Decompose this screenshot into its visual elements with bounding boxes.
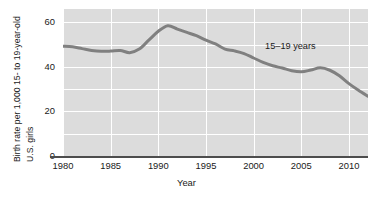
y-axis-tick-label: 60 xyxy=(33,16,55,27)
x-axis-line xyxy=(50,156,368,158)
x-axis-tick-label: 2000 xyxy=(234,160,274,171)
x-axis-tick-label: 2005 xyxy=(281,160,321,171)
y-axis-tick-label: 40 xyxy=(33,61,55,72)
x-axis-title: Year xyxy=(0,177,373,188)
x-axis-tick-label: 2010 xyxy=(329,160,369,171)
x-axis-tick-label: 1980 xyxy=(43,160,83,171)
y-axis-title: Birth rate per 1,000 15- to 19-year-old … xyxy=(0,0,36,168)
y-axis-tick-label: 20 xyxy=(33,105,55,116)
series-line-path xyxy=(63,26,368,97)
x-axis-tick-label: 1995 xyxy=(186,160,226,171)
data-line-series xyxy=(63,9,368,156)
plot-area: 15–19 years xyxy=(63,9,368,156)
y-axis-title-line-1: Birth rate per 1,000 15- to 19-year-old xyxy=(12,16,22,162)
x-axis-tick-label: 1985 xyxy=(91,160,131,171)
chart-figure: Birth rate per 1,000 15- to 19-year-old … xyxy=(0,0,373,199)
x-axis-tick-label: 1990 xyxy=(138,160,178,171)
series-annotation-label: 15–19 years xyxy=(265,41,316,51)
